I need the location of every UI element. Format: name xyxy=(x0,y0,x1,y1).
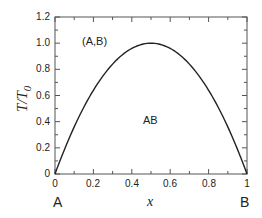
y-tick-label: 1.0 xyxy=(20,37,50,48)
y-axis-label-main: T/T xyxy=(14,91,30,112)
y-tick-label: 1.2 xyxy=(20,11,50,22)
x-axis-label: x xyxy=(147,194,153,210)
region-label-two-phase: (A,B) xyxy=(82,35,107,47)
x-tick-label: 0.2 xyxy=(78,178,108,189)
corner-label-a: A xyxy=(53,194,62,210)
y-axis-label: T/T0 xyxy=(14,86,33,112)
y-axis-label-subscript: 0 xyxy=(21,86,33,92)
x-tick-label: 0.8 xyxy=(194,178,224,189)
phase-boundary-curve xyxy=(55,43,247,174)
corner-label-b: B xyxy=(240,194,249,210)
x-tick-label: 0 xyxy=(40,178,70,189)
x-tick-label: 0.4 xyxy=(117,178,147,189)
y-tick-label: 0.4 xyxy=(20,116,50,127)
x-tick-label: 0.6 xyxy=(155,178,185,189)
region-label-ordered: AB xyxy=(143,114,158,126)
y-tick-label: 0.2 xyxy=(20,142,50,153)
x-tick-label: 1 xyxy=(232,178,262,189)
y-tick-label: 0.8 xyxy=(20,63,50,74)
